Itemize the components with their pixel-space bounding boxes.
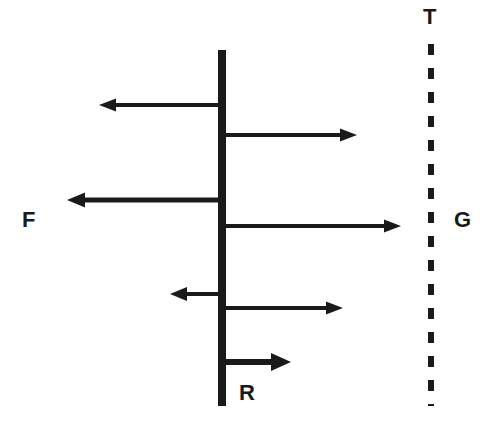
arrow-left-1 (99, 99, 222, 112)
label-T: T (423, 6, 436, 28)
arrow-left-2 (67, 193, 222, 208)
label-R: R (239, 382, 255, 404)
arrow-left-3 (170, 287, 222, 301)
arrow-right-1 (222, 129, 357, 142)
diagram-canvas: T F G R (0, 0, 491, 423)
label-G: G (454, 209, 471, 231)
label-F: F (22, 209, 35, 231)
arrow-right-4 (222, 353, 291, 371)
arrow-right-2 (222, 220, 401, 233)
diagram-vector-layer (0, 0, 491, 423)
arrow-right-3 (222, 302, 343, 315)
